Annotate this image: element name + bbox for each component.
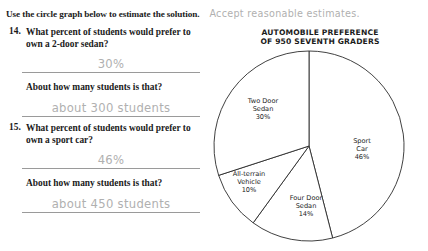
instruction-handwritten-note: Accept reasonable estimates.	[209, 8, 359, 19]
pie-label-all-terrain-vehicle-line1: All-terrain	[218, 170, 280, 178]
pie-label-two-door-sedan-line1: Two Door	[232, 97, 294, 105]
question-14-prompt: What percent of students would prefer to…	[26, 26, 206, 51]
question-15-number: 15.	[9, 122, 21, 132]
pie-label-sport-car-line2: Car	[338, 145, 386, 153]
pie-label-all-terrain-vehicle-line2: Vehicle	[218, 178, 280, 186]
question-15-answer-percent-field[interactable]: 46%	[22, 148, 200, 169]
pie-label-four-door-sedan-line1: Four Door	[276, 194, 336, 202]
pie-label-sport-car-line1: Sport	[338, 137, 386, 145]
question-15-answer-percent-value: 46%	[22, 153, 200, 167]
questions-column: 14. What percent of students would prefe…	[0, 26, 212, 251]
question-14-prompt-line1: What percent of students would prefer	[26, 27, 180, 37]
pie-label-sport-car-percent: 46%	[338, 153, 386, 161]
pie-label-two-door-sedan: Two Door Sedan 30%	[232, 97, 294, 122]
question-15-answer-count-value: about 450 students	[22, 197, 200, 211]
question-15-followup-prompt: About how many students is that?	[26, 177, 206, 189]
question-15-prompt-line1: What percent of students would prefer	[26, 123, 180, 133]
pie-label-two-door-sedan-line2: Sedan	[232, 105, 294, 113]
question-14-number: 14.	[9, 26, 21, 36]
question-14-answer-percent-field[interactable]: 30%	[22, 52, 200, 73]
pie-label-all-terrain-vehicle-percent: 10%	[218, 186, 280, 194]
pie-label-all-terrain-vehicle: All-terrain Vehicle 10%	[218, 170, 280, 195]
instruction-bar: Use the circle graph below to estimate t…	[6, 3, 422, 19]
instruction-text: Use the circle graph below to estimate t…	[6, 9, 199, 19]
question-14-answer-count-value: about 300 students	[22, 101, 200, 115]
pie-label-two-door-sedan-percent: 30%	[232, 113, 294, 121]
pie-label-sport-car: Sport Car 46%	[338, 137, 386, 162]
question-14-followup-prompt: About how many students is that?	[26, 81, 206, 93]
question-15-prompt: What percent of students would prefer to…	[26, 122, 206, 147]
question-14-answer-percent-value: 30%	[22, 57, 200, 71]
question-15-answer-count-field[interactable]: about 450 students	[22, 192, 200, 213]
pie-label-four-door-sedan: Four Door Sedan 14%	[276, 194, 336, 219]
pie-label-four-door-sedan-percent: 14%	[276, 210, 336, 218]
pie-label-four-door-sedan-line2: Sedan	[276, 202, 336, 210]
question-14-answer-count-field[interactable]: about 300 students	[22, 96, 200, 117]
circle-graph-panel: AUTOMOBILE PREFERENCE OF 950 SEVENTH GRA…	[212, 26, 428, 251]
